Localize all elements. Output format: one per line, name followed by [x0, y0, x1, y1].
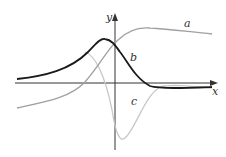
graph: [0, 0, 226, 157]
curve-a-label: a: [184, 18, 191, 29]
y-axis-arrow-icon: [112, 13, 118, 21]
curve-c-label: c: [131, 96, 137, 107]
curve-b-label: b: [130, 52, 137, 63]
x-axis-label: x: [212, 86, 218, 97]
curve-c: [85, 52, 212, 139]
y-axis-label: y: [106, 12, 112, 23]
